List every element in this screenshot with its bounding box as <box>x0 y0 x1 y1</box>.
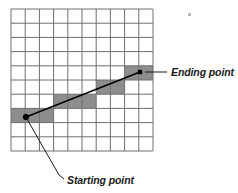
shaded-cell <box>11 108 25 122</box>
pixel-grid-line-diagram: Ending point Starting point <box>0 0 238 193</box>
shaded-cell <box>82 94 96 108</box>
ending-point-marker <box>138 70 142 74</box>
starting-point-label: Starting point <box>67 174 134 186</box>
ending-point-label: Ending point <box>171 66 235 78</box>
canvas-background <box>0 0 238 193</box>
starting-point-marker <box>23 114 29 120</box>
scan-artifact-speck <box>188 13 191 16</box>
